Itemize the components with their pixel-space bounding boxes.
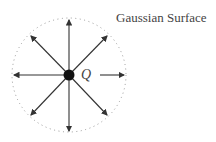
diagram-title: Gaussian Surface [116,10,207,26]
field-line-up-left [31,36,69,75]
charge-label: Q [81,67,91,83]
field-line-down-left [31,75,69,115]
point-charge [64,70,75,81]
